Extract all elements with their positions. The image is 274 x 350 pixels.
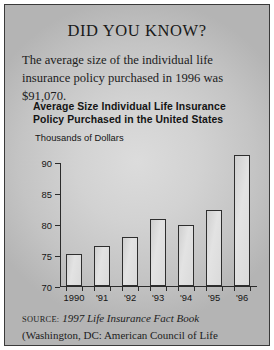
y-tick [55, 194, 60, 195]
bar [122, 237, 138, 286]
y-tick [55, 287, 60, 288]
source-title: 1997 Life Insurance Fact Book [62, 312, 199, 324]
x-tick-label: '96 [236, 292, 248, 303]
x-tick [66, 287, 67, 291]
source-citation: SOURCE: 1997 Life Insurance Fact Book (W… [22, 311, 256, 346]
x-tick [250, 287, 251, 291]
x-tick-label: '95 [208, 292, 220, 303]
x-tick [234, 287, 235, 291]
x-tick [178, 287, 179, 291]
bar [206, 210, 222, 286]
bar [66, 254, 82, 286]
y-axis-line [60, 163, 61, 287]
x-tick [94, 287, 95, 291]
x-axis-line [60, 286, 257, 287]
x-tick [222, 287, 223, 291]
x-tick-label: '91 [96, 292, 108, 303]
bar [94, 246, 110, 286]
x-tick [138, 287, 139, 291]
x-tick-label: 1990 [64, 292, 85, 303]
bar [150, 219, 166, 286]
x-tick [122, 287, 123, 291]
x-tick [166, 287, 167, 291]
y-tick-label: 85 [42, 189, 52, 200]
y-tick-label: 75 [42, 251, 52, 262]
source-rest: (Washington, DC: American Council of Lif… [22, 329, 218, 347]
did-you-know-card: DID YOU KNOW? The average size of the in… [4, 4, 270, 346]
card-inner: DID YOU KNOW? The average size of the in… [5, 5, 269, 345]
lede-text: The average size of the individual life … [22, 51, 256, 105]
x-tick-label: '94 [180, 292, 192, 303]
y-tick [55, 225, 60, 226]
x-tick [150, 287, 151, 291]
x-tick [194, 287, 195, 291]
x-tick [82, 287, 83, 291]
source-label: SOURCE: [22, 315, 59, 324]
page-title: DID YOU KNOW? [5, 21, 269, 41]
y-tick-label: 80 [42, 220, 52, 231]
y-tick [55, 256, 60, 257]
bar [178, 225, 194, 286]
bar [234, 155, 250, 286]
x-tick [206, 287, 207, 291]
y-axis-caption: Thousands of Dollars [35, 132, 124, 143]
bar-chart-plot: 7075808590 1990'91'92'93'94'95'96 [60, 163, 256, 287]
y-tick-label: 70 [42, 282, 52, 293]
y-tick [55, 163, 60, 164]
x-tick-label: '92 [124, 292, 136, 303]
chart-title: Average Size Individual Life Insurance P… [33, 101, 253, 126]
x-tick-label: '93 [152, 292, 164, 303]
y-tick-label: 90 [42, 158, 52, 169]
x-tick [110, 287, 111, 291]
